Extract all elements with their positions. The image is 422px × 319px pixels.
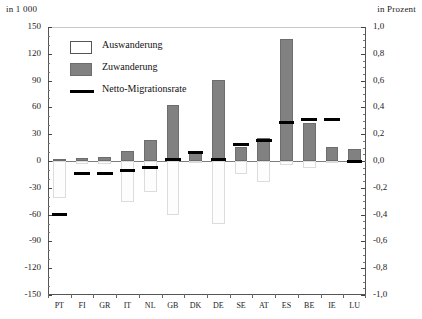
x-tick — [48, 294, 49, 298]
left-axis-unit-label: in 1 000 — [6, 4, 37, 14]
x-tick — [298, 294, 299, 298]
x-tick — [162, 294, 163, 298]
legend-item-auswanderung: Auswanderung — [70, 38, 270, 60]
x-tick — [93, 294, 94, 298]
x-label-ie: IE — [321, 301, 344, 310]
left-tick-label: 150 — [0, 21, 41, 31]
left-tick-label: -60 — [0, 209, 41, 219]
right-tick-label: -0,2 — [373, 182, 387, 192]
x-label-es: ES — [275, 301, 298, 310]
left-tick-label: 120 — [0, 48, 41, 58]
legend-swatch-auswanderung-icon — [70, 41, 92, 54]
right-tick-label: -0,8 — [373, 262, 387, 272]
left-tick-label: 0 — [0, 155, 41, 165]
x-label-it: IT — [116, 301, 139, 310]
legend-item-zuwanderung: Zuwanderung — [70, 60, 270, 82]
x-tick — [184, 294, 185, 298]
left-tick-label: 90 — [0, 75, 41, 85]
x-label-gr: GR — [93, 301, 116, 310]
legend-swatch-zuwanderung-icon — [70, 63, 92, 76]
right-tick-label: -0,6 — [373, 235, 387, 245]
legend-item-netto-migrationsrate: Netto-Migrationsrate — [70, 82, 270, 104]
legend-label-auswanderung: Auswanderung — [102, 39, 163, 50]
x-label-fi: FI — [71, 301, 94, 310]
x-label-gb: GB — [162, 301, 185, 310]
right-axis-unit-label: in Prozent — [377, 4, 416, 14]
x-tick — [230, 294, 231, 298]
left-tick-label: -150 — [0, 289, 41, 299]
legend-label-zuwanderung: Zuwanderung — [102, 61, 158, 72]
x-label-se: SE — [230, 301, 253, 310]
x-label-nl: NL — [139, 301, 162, 310]
x-tick — [207, 294, 208, 298]
x-tick — [275, 294, 276, 298]
x-label-lu: LU — [343, 301, 366, 310]
x-label-at: AT — [252, 301, 275, 310]
left-tick-label: -30 — [0, 182, 41, 192]
x-tick — [116, 294, 117, 298]
right-tick-label: -0,4 — [373, 209, 387, 219]
legend-label-netto-migrationsrate: Netto-Migrationsrate — [102, 83, 186, 94]
legend-swatch-netto-line-icon — [70, 90, 94, 93]
x-tick — [343, 294, 344, 298]
x-tick — [139, 294, 140, 298]
right-tick-label: -1,0 — [373, 289, 387, 299]
right-tick-label: 0,2 — [373, 128, 384, 138]
x-tick — [252, 294, 253, 298]
right-tick-label: 1,0 — [373, 21, 384, 31]
x-tick — [321, 294, 322, 298]
chart-legend: Auswanderung Zuwanderung Netto-Migration… — [70, 38, 270, 104]
migration-bar-chart: in 1 000 in Prozent 1501209060300-30-60-… — [0, 0, 422, 319]
right-tick-label: 0,6 — [373, 75, 384, 85]
left-tick-label: 30 — [0, 128, 41, 138]
right-tick-label: 0,0 — [373, 155, 384, 165]
left-tick-label: 60 — [0, 101, 41, 111]
x-tick — [71, 294, 72, 298]
x-tick — [365, 294, 366, 298]
right-tick-label: 0,8 — [373, 48, 384, 58]
left-tick-label: -120 — [0, 262, 41, 272]
x-label-de: DE — [207, 301, 230, 310]
x-label-pt: PT — [48, 301, 71, 310]
right-tick-label: 0,4 — [373, 101, 384, 111]
left-tick-label: -90 — [0, 235, 41, 245]
x-label-dk: DK — [184, 301, 207, 310]
x-label-be: BE — [298, 301, 321, 310]
netto-migrationsrate-marker — [347, 160, 362, 163]
